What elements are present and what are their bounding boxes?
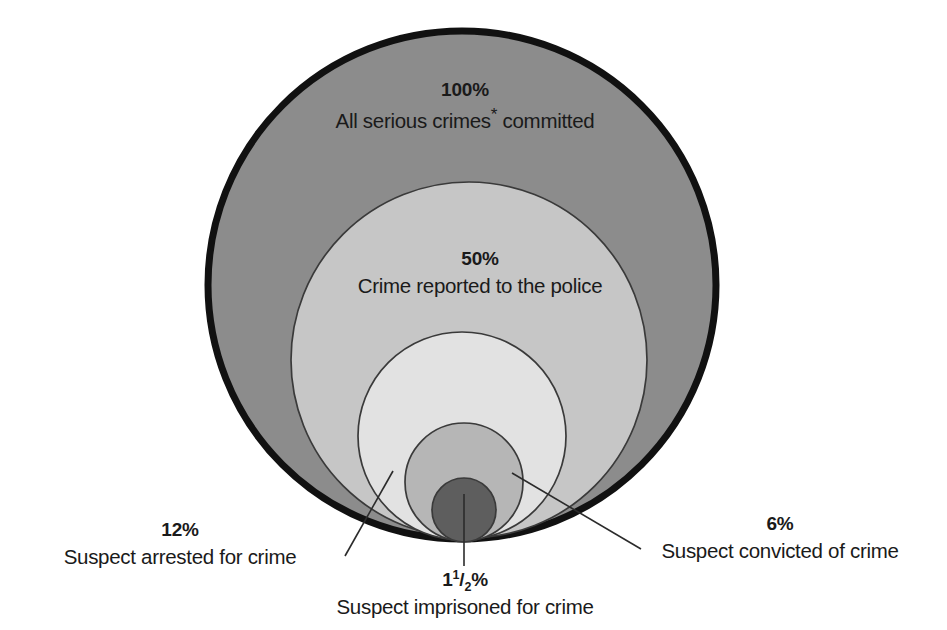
percent-arrested: 12% (20, 518, 340, 542)
diagram-canvas: 100% All serious crimes* committed 50% C… (0, 0, 947, 630)
percent-convicted: 6% (625, 512, 935, 536)
description-convicted: Suspect convicted of crime (625, 538, 935, 564)
fraction-numerator: 1 (453, 568, 460, 582)
description-arrested: Suspect arrested for crime (20, 544, 340, 570)
label-convicted: 6% Suspect convicted of crime (625, 512, 935, 565)
percent-sign: % (471, 569, 488, 590)
label-arrested: 12% Suspect arrested for crime (20, 518, 340, 571)
percent-reported: 50% (330, 247, 630, 271)
percent-imprisoned: 11/2% (310, 568, 620, 592)
description-all-crimes-tail: committed (497, 109, 594, 132)
label-imprisoned: 11/2% Suspect imprisoned for crime (310, 568, 620, 621)
description-reported: Crime reported to the police (330, 273, 630, 299)
description-all-crimes-text: All serious crimes (336, 109, 491, 132)
fraction-one-half: 11/2% (442, 568, 488, 592)
percent-imprisoned-whole: 1 (442, 569, 452, 590)
description-all-crimes: All serious crimes* committed (275, 104, 655, 134)
description-imprisoned: Suspect imprisoned for crime (310, 594, 620, 620)
label-all-crimes: 100% All serious crimes* committed (275, 78, 655, 134)
percent-all-crimes: 100% (275, 78, 655, 102)
label-reported: 50% Crime reported to the police (330, 247, 630, 300)
